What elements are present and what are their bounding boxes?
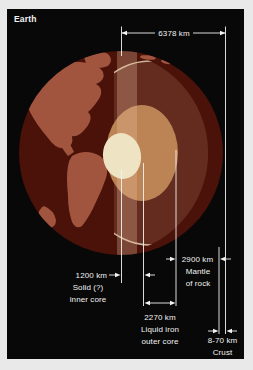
figure-title: Earth [14, 14, 37, 24]
inner-core-value-label: 1200 km [76, 271, 108, 280]
crust-desc-line1: Crust [213, 348, 233, 357]
outer-core-desc-line2: outer core [141, 337, 178, 346]
outer-core-value-label: 2270 km [144, 313, 176, 322]
outer-core-desc-line1: Liquid iron [141, 325, 179, 334]
inner-core-desc-line2: inner core [70, 295, 107, 304]
earth-cutaway-diagram: Earth 6378 km 1200 km Solid (?) inner co… [0, 0, 253, 370]
crust-value-label: 8-70 km [208, 336, 238, 345]
radius-dimension-label: 6378 km [158, 29, 190, 38]
mantle-desc-line1: Mantle [186, 267, 211, 276]
inner-core-desc-line1: Solid (?) [73, 283, 104, 292]
earth-interior-figure: Earth 6378 km 1200 km Solid (?) inner co… [0, 0, 253, 370]
mantle-value-label: 2900 km [182, 255, 214, 264]
mantle-desc-line2: of rock [186, 279, 212, 288]
